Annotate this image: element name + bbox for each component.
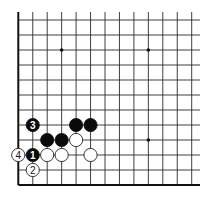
black-stone-move-1: 1 <box>26 148 39 161</box>
black-stone <box>55 133 68 146</box>
black-stone-icon <box>70 118 83 131</box>
white-stone-icon <box>55 148 68 161</box>
white-stone <box>41 148 54 161</box>
move-number-label: 3 <box>30 120 36 131</box>
black-stone <box>84 118 97 131</box>
go-board-diagram: 3142 <box>0 0 212 200</box>
move-number-label: 4 <box>16 150 22 161</box>
white-stone <box>70 133 83 146</box>
white-stone-icon <box>84 148 97 161</box>
black-stone-move-3: 3 <box>26 118 39 131</box>
black-stone-icon <box>55 133 68 146</box>
black-stone <box>41 133 54 146</box>
black-stone-icon <box>84 118 97 131</box>
white-stone <box>55 148 68 161</box>
white-stone-move-2: 2 <box>26 163 39 176</box>
star-point-icon <box>60 48 64 52</box>
star-point-icon <box>147 138 151 142</box>
white-stone-icon <box>41 148 54 161</box>
stones: 3142 <box>12 118 97 176</box>
move-number-label: 1 <box>30 150 36 161</box>
go-board-canvas: 3142 <box>0 0 212 200</box>
white-stone-icon <box>70 133 83 146</box>
white-stone <box>84 148 97 161</box>
star-point-icon <box>147 48 151 52</box>
white-stone-move-4: 4 <box>12 148 25 161</box>
move-number-label: 2 <box>30 165 36 176</box>
black-stone-icon <box>41 133 54 146</box>
black-stone <box>70 118 83 131</box>
